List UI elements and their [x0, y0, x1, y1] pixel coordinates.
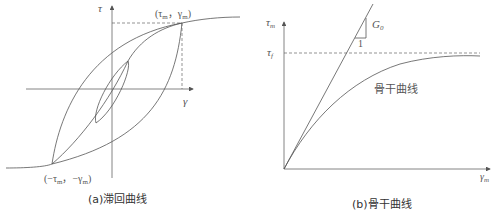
outer-loop-upper	[52, 23, 182, 164]
caption-b: (b)骨干曲线	[352, 195, 412, 211]
peak-point-label: (τm，γm)	[155, 5, 191, 21]
caption-a: (a)滞回曲线	[88, 190, 147, 206]
g0-slope-label: G0	[372, 18, 383, 32]
tau-f-label: τf	[267, 46, 273, 60]
inner-skeleton	[52, 61, 128, 164]
panel-a-axes	[26, 6, 193, 178]
tau-axis-label-a: τ	[98, 2, 102, 14]
gamma-axis-label-a: γ	[183, 95, 187, 107]
skeleton-curve-label: 骨干曲线	[374, 80, 418, 96]
hysteresis-curves	[6, 17, 240, 168]
skeleton-tail-left	[6, 164, 52, 168]
outer-loop-lower	[52, 23, 182, 164]
gamma-m-axis-label: γm	[480, 171, 489, 184]
tau-m-axis-label: τm	[266, 16, 275, 30]
trough-point-label: (−τm，−γm)	[44, 170, 91, 186]
skeleton-curve	[284, 56, 480, 169]
initial-stiffness-line	[284, 4, 373, 169]
slope-run-label: 1	[358, 38, 363, 49]
